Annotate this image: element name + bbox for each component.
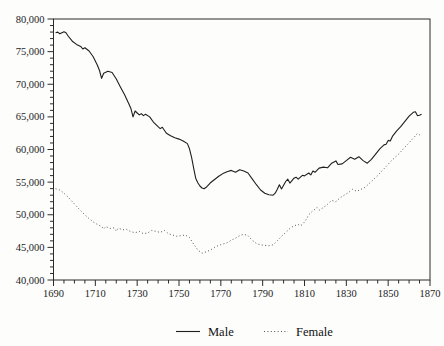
legend-female-label: Female bbox=[296, 325, 333, 339]
male-line bbox=[56, 32, 422, 196]
y-tick-label: 55,000 bbox=[16, 177, 45, 188]
x-tick-label: 1810 bbox=[294, 288, 315, 299]
legend: Male Female bbox=[176, 325, 333, 339]
x-tick-label: 1690 bbox=[43, 288, 64, 299]
data-series bbox=[56, 32, 422, 254]
x-axis-tick-labels: 1690171017301750177017901810183018501870 bbox=[43, 288, 441, 299]
legend-male-label: Male bbox=[208, 325, 234, 339]
y-axis-ticks bbox=[48, 19, 54, 280]
y-tick-label: 80,000 bbox=[16, 14, 45, 25]
x-axis-ticks bbox=[54, 280, 431, 286]
y-tick-label: 75,000 bbox=[16, 46, 45, 57]
x-tick-label: 1830 bbox=[336, 288, 357, 299]
plot-frame bbox=[54, 19, 431, 280]
x-tick-label: 1850 bbox=[378, 288, 399, 299]
y-tick-label: 60,000 bbox=[16, 144, 45, 155]
x-tick-label: 1750 bbox=[169, 288, 190, 299]
x-tick-label: 1870 bbox=[420, 288, 441, 299]
x-tick-label: 1770 bbox=[210, 288, 231, 299]
y-tick-label: 65,000 bbox=[16, 111, 45, 122]
x-tick-label: 1790 bbox=[252, 288, 273, 299]
x-tick-label: 1710 bbox=[85, 288, 106, 299]
y-tick-label: 70,000 bbox=[16, 79, 45, 90]
female-line bbox=[56, 133, 422, 253]
y-tick-label: 40,000 bbox=[16, 275, 45, 286]
x-tick-label: 1730 bbox=[127, 288, 148, 299]
y-tick-label: 45,000 bbox=[16, 242, 45, 253]
y-axis-tick-labels: 80,00075,00070,00065,00060,00055,00050,0… bbox=[16, 14, 45, 286]
population-line-chart: 80,00075,00070,00065,00060,00055,00050,0… bbox=[0, 0, 444, 346]
chart-figure: 80,00075,00070,00065,00060,00055,00050,0… bbox=[0, 0, 444, 346]
y-tick-label: 50,000 bbox=[16, 209, 45, 220]
